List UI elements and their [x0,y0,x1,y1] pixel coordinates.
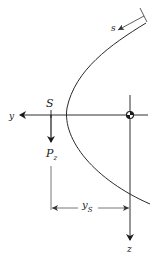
shear-center-label: S [46,97,54,110]
s-end-tick [140,8,147,22]
section-curve [67,23,150,204]
s-coordinate-label: s [111,23,116,33]
offset-label: yS [81,199,93,214]
load-label: Pz [45,147,57,162]
z-axis-label: z [126,244,132,254]
y-axis-label: y [8,111,15,121]
diagram-canvas: s y S Pz yS z [0,0,159,256]
s-direction-arrow [118,16,144,30]
origin-marker-icon [127,112,134,119]
